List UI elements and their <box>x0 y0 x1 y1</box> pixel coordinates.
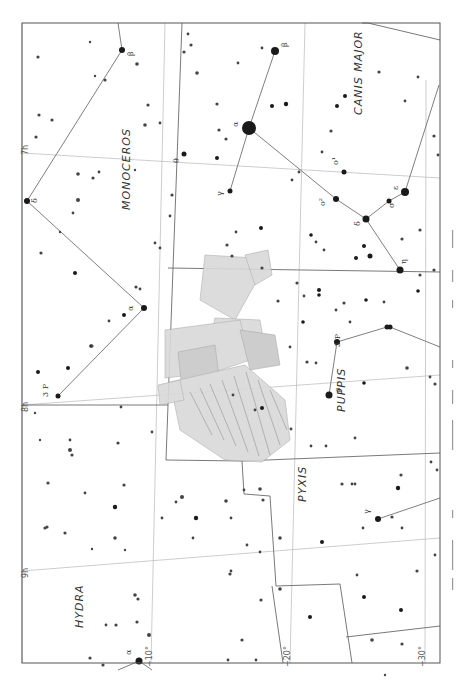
star-designation-label: β <box>280 42 289 47</box>
star-designation-label: α <box>126 305 135 311</box>
star-designation-label: δ <box>353 221 362 226</box>
constellation-label: CANIS MAJOR <box>352 30 365 115</box>
coordinate-label: 9h <box>21 568 30 578</box>
star-designation-label: o² <box>318 198 327 206</box>
star-designation-label: θ <box>172 158 181 163</box>
star-designation-label: η <box>399 259 408 264</box>
coordinate-label: −10° <box>145 646 154 667</box>
constellation-label: MONOCEROS <box>120 128 133 210</box>
star-designation-label: δ <box>30 198 39 203</box>
star-designation-label: 3 P <box>41 383 50 397</box>
star-designation-label: γ <box>215 191 224 196</box>
argo-navis-illustration <box>158 250 290 462</box>
star-chart: MONOCEROSCANIS MAJORPUPPISPYXISHYDRA7h8h… <box>0 0 457 690</box>
constellation-label: PYXIS <box>296 466 309 502</box>
star-designation-label: o¹ <box>331 157 340 165</box>
margin-marks <box>452 230 453 590</box>
star-designation-label: β <box>126 51 135 56</box>
coordinate-label: −20° <box>283 646 292 667</box>
star-designation-label: α <box>231 121 240 127</box>
star-designation-label: ε <box>391 186 400 190</box>
star-designation-label: ρ <box>333 387 342 392</box>
coordinate-label: −30° <box>418 646 427 667</box>
star-designation-label: α <box>124 649 133 655</box>
star-designation-label: σ <box>387 202 396 208</box>
coordinate-label: 8h <box>21 402 30 412</box>
constellation-label: HYDRA <box>73 584 86 628</box>
star-designation-label: γ <box>362 509 371 514</box>
star-designation-label: 3 P <box>333 333 342 347</box>
coordinate-label: 7h <box>21 145 30 155</box>
